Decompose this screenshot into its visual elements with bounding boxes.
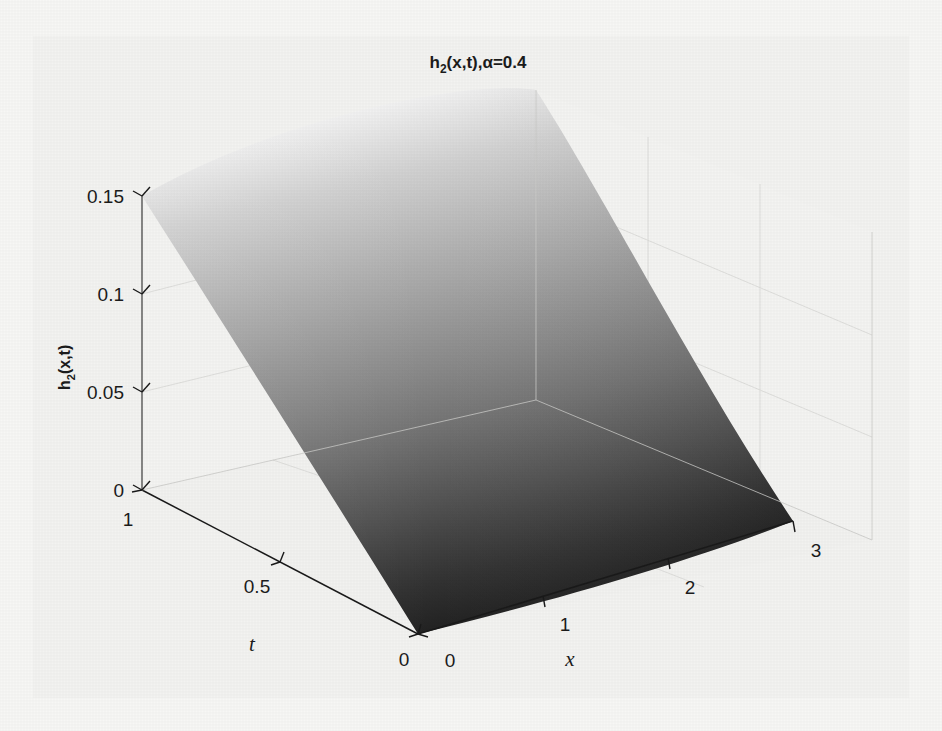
figure-root: 0.15 0.1 0.05 0 h2(x,t) 1: [0, 0, 942, 731]
x-axis-label: x: [564, 647, 575, 671]
title-main: h: [430, 53, 440, 72]
x-tick-label-3: 3: [811, 540, 822, 561]
t-axis-label: t: [249, 632, 256, 656]
x-tick-label-1: 1: [560, 614, 571, 635]
z-title-rest: (x,t): [56, 345, 73, 374]
x-tick-label-2: 2: [685, 577, 696, 598]
z-axis-ticks: 0.15 0.1 0.05 0: [87, 186, 150, 501]
z-tick-label-1: 0.05: [87, 382, 124, 403]
title-rest: (x,t),α=0.4: [447, 53, 527, 72]
t-tick-label-1: 1: [123, 509, 134, 530]
z-title-main: h: [56, 380, 73, 390]
z-axis-title: h2(x,t): [56, 345, 77, 390]
z-tick-label-3: 0.15: [87, 186, 124, 207]
plot-title: h2(x,t),α=0.4: [430, 53, 528, 76]
z-tick-label-0: 0: [113, 480, 124, 501]
t-tick-label-0.5: 0.5: [244, 576, 270, 597]
t-tick-label-0: 0: [399, 649, 410, 670]
x-tick-label-0: 0: [445, 650, 456, 671]
svg-text:h2(x,t): h2(x,t): [56, 345, 77, 390]
surface-plot-figure: 0.15 0.1 0.05 0 h2(x,t) 1: [0, 0, 942, 731]
z-tick-label-2: 0.1: [98, 284, 124, 305]
